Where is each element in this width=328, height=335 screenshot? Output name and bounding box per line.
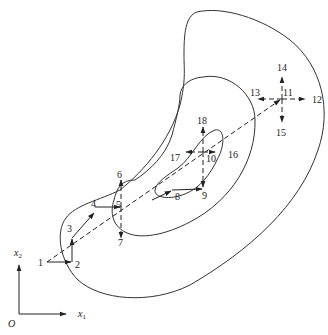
point-label-7: 7 (118, 237, 123, 248)
point-label-5: 5 (116, 199, 121, 210)
point-label-10: 10 (206, 153, 216, 164)
point-label-14: 14 (277, 62, 287, 73)
point-label-12: 12 (312, 94, 322, 105)
move-8-9 (172, 189, 202, 190)
point-label-9: 9 (202, 190, 207, 201)
x2-axis-label: x2 (13, 247, 22, 260)
point-label-3: 3 (67, 223, 72, 234)
point-label-6: 6 (117, 169, 122, 180)
origin-label: O (8, 318, 15, 329)
point-label-15: 15 (276, 127, 286, 138)
move-3-4 (72, 213, 94, 238)
point-label-8: 8 (175, 191, 180, 202)
point-label-16: 16 (228, 149, 238, 160)
point-label-4: 4 (91, 198, 96, 209)
contour-outer (60, 10, 324, 297)
x1-axis-label: x1 (77, 308, 86, 321)
point-label-13: 13 (250, 87, 260, 98)
point-label-18: 18 (197, 115, 207, 126)
point-label-2: 2 (75, 259, 80, 270)
contour-search-diagram: 1 2 3 4 5 6 7 8 9 10 11 12 13 14 15 16 1… (0, 0, 328, 335)
point-label-1: 1 (38, 257, 43, 268)
point-label-11: 11 (283, 87, 293, 98)
point-label-17: 17 (170, 152, 180, 163)
pattern-direction-line (47, 100, 280, 262)
